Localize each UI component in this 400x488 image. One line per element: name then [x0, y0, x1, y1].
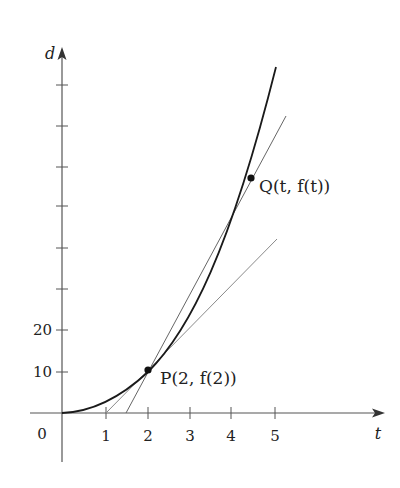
t-tick-label-1: 1 [101, 427, 111, 445]
position-curve [62, 372, 148, 413]
position-curve-drawn [62, 67, 276, 413]
t-tick-label-4: 4 [226, 427, 236, 445]
point-p-marker [144, 366, 151, 373]
point-q-marker [247, 174, 254, 181]
point-q-label: Q(t, f(t)) [259, 176, 330, 196]
axes: 1 2 3 4 5 0 10 20 t d [30, 44, 385, 462]
d-tick-label-10: 10 [33, 363, 52, 381]
point-p-label: P(2, f(2)) [160, 368, 237, 388]
t-tick-label-3: 3 [185, 427, 195, 445]
t-tick-label-5: 5 [270, 427, 280, 445]
d-axis-label: d [45, 44, 55, 63]
d-tick-label-20: 20 [33, 321, 52, 339]
t-axis-label: t [375, 424, 382, 443]
t-tick-label-2: 2 [143, 427, 153, 445]
position-time-diagram: 1 2 3 4 5 0 10 20 t d P(2, f(2)) Q(t, f(… [0, 0, 400, 488]
origin-label: 0 [37, 425, 47, 443]
